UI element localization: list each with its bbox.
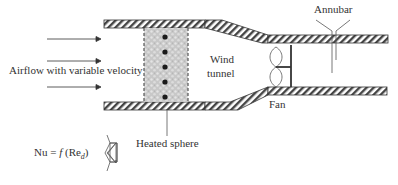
output-arrow-outline: [105, 143, 117, 162]
nusselt-equation: Nu = f (Red): [34, 146, 89, 161]
bottom-right-wall: [268, 87, 387, 95]
fan-label: Fan: [269, 98, 286, 110]
heated-sphere-label: Heated sphere: [136, 137, 199, 149]
heated-sphere-bed: [144, 28, 188, 102]
annubar-probe: [316, 20, 350, 73]
arrow-icon: [47, 59, 101, 64]
top-right-wall: [268, 35, 388, 43]
annubar-label: Annubar: [314, 3, 353, 15]
sphere-dot: [162, 94, 167, 99]
sphere-dot: [162, 64, 167, 69]
bottom-left-wall: [104, 102, 205, 110]
wind-tunnel-diagram: Airflow with variable velocity Heated sp…: [0, 0, 398, 185]
arrow-icon: [47, 37, 101, 42]
top-contraction-wall: [205, 20, 268, 43]
wind-tunnel-label-line2: tunnel: [207, 67, 235, 79]
airflow-arrows: [47, 37, 101, 90]
sphere-dot: [162, 34, 167, 39]
bottom-contraction-wall: [205, 87, 268, 110]
wind-tunnel-label-line1: Wind: [210, 53, 234, 65]
airflow-label: Airflow with variable velocity: [9, 64, 143, 76]
sphere-dot: [162, 49, 167, 54]
top-left-wall: [104, 20, 205, 28]
sphere-dot: [162, 79, 167, 84]
arrow-icon: [47, 85, 101, 90]
